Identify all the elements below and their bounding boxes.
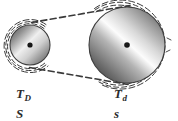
driven-pulley (89, 7, 165, 83)
driver-label-group: TD S (16, 87, 31, 120)
belt-detail-marks (166, 38, 171, 52)
driven-speed-label: s (114, 107, 127, 120)
belt-drive-figure: TD S Td s (0, 0, 178, 121)
driver-torque-subscript: D (24, 93, 31, 103)
driver-pulley (10, 25, 50, 65)
driver-pulley-hub (27, 42, 32, 47)
driver-torque-symbol: T (16, 86, 24, 101)
driver-speed-label: S (16, 107, 31, 120)
driven-label-group: Td s (114, 87, 127, 120)
driven-pulley-hub (124, 42, 130, 48)
driven-torque-subscript: d (122, 93, 127, 103)
driven-torque-symbol: T (114, 86, 122, 101)
driver-torque-label: TD (16, 87, 31, 103)
driven-torque-label: Td (114, 87, 127, 103)
